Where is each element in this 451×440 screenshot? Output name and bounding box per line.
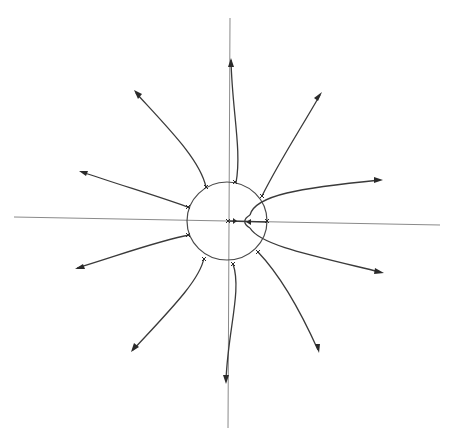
arrowhead-right-lower	[374, 268, 384, 274]
real-axis	[14, 217, 440, 225]
branch-left-upper	[82, 172, 190, 208]
branch-upper-left	[136, 93, 206, 187]
root-locus-svg	[0, 0, 451, 440]
arrowhead-up	[228, 58, 234, 67]
arrowhead-real-axis-left	[246, 219, 251, 225]
branch-right-upper	[250, 180, 380, 215]
arrowhead-upper-right	[314, 92, 322, 101]
branch-down	[226, 264, 236, 380]
branch-lower-right	[258, 252, 318, 350]
arrowhead-right-upper	[374, 177, 383, 183]
branch-up	[231, 60, 238, 183]
root-locus-figure	[0, 0, 451, 440]
arrowhead-left-lower	[75, 264, 85, 269]
branch-lower-left	[133, 258, 204, 350]
arrowhead-left-upper	[79, 171, 88, 176]
branch-upper-right	[262, 95, 320, 196]
pole-marker	[256, 250, 260, 254]
arrowhead-real-axis-right	[233, 218, 237, 224]
arrowhead-lower-right	[315, 344, 320, 353]
branch-left-lower	[77, 235, 190, 268]
